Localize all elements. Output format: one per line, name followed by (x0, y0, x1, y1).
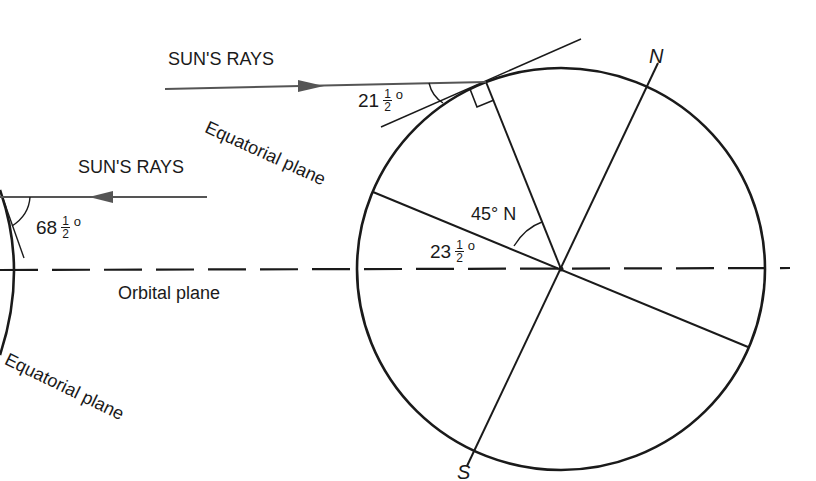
degree-symbol: o (468, 239, 475, 252)
arrow-right-icon (298, 80, 324, 92)
left-angle-arc (12, 197, 30, 226)
south-pole-label: S (457, 462, 470, 481)
incidence-angle-label: 21 1 2 o (358, 88, 403, 113)
left-earth-arc (0, 190, 14, 355)
orbital-plane-line (0, 268, 790, 270)
incidence-angle-whole: 21 (358, 91, 379, 110)
orbital-plane-label: Orbital plane (118, 284, 220, 302)
incidence-angle-fraction: 1 2 (383, 88, 392, 113)
north-pole-label: N (649, 46, 663, 66)
left-sun-angle-label: 68 1 2 o (36, 215, 81, 240)
sun-rays-label-upper: SUN'S RAYS (168, 50, 274, 68)
degree-symbol: o (74, 215, 81, 228)
tilt-angle-label: 23 1 2 o (430, 239, 475, 264)
sun-rays-label-lower: SUN'S RAYS (78, 158, 184, 176)
tilt-angle-fraction: 1 2 (455, 239, 464, 264)
latitude-angle-arc (514, 222, 542, 246)
tilt-angle-whole: 23 (430, 242, 451, 261)
sun-ray-upper (165, 82, 486, 89)
latitude-label: 45° N (471, 205, 516, 223)
latitude-radius-line (486, 82, 561, 269)
left-sun-angle-whole: 68 (36, 218, 57, 237)
arrow-left-icon (89, 191, 113, 203)
earth-center (559, 267, 564, 272)
left-sun-angle-fraction: 1 2 (61, 215, 70, 240)
degree-symbol: o (396, 88, 403, 101)
earth-axis-line (467, 63, 658, 466)
